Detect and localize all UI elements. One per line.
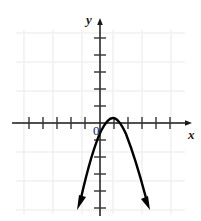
y-axis — [97, 18, 103, 216]
coordinate-plane-svg — [0, 0, 201, 221]
origin-label: 0 — [93, 124, 100, 137]
x-axis-arrow — [185, 120, 192, 126]
graph-figure: y x 0 — [0, 0, 201, 221]
y-axis-label: y — [86, 13, 92, 26]
x-axis-label: x — [188, 128, 195, 141]
y-axis-arrow — [97, 18, 103, 25]
x-axis — [12, 120, 192, 126]
